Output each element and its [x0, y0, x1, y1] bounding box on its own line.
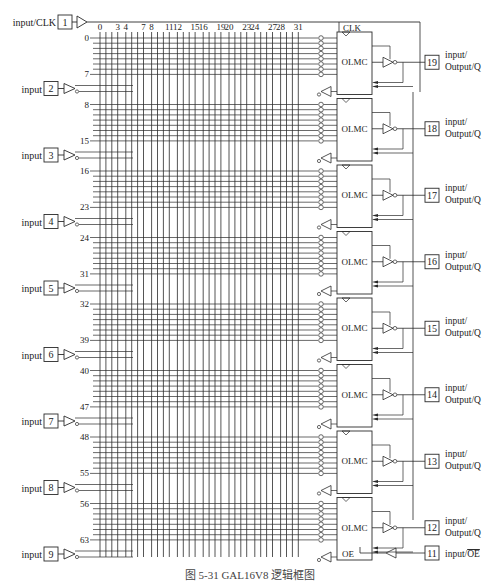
- and-gate-icon: [319, 405, 324, 410]
- and-gate-icon: [319, 200, 324, 205]
- pin-number: 16: [427, 256, 437, 267]
- input-buffer-icon: [64, 283, 75, 293]
- feedback-arrow-icon: [372, 148, 378, 151]
- pin-label: Output/Q: [445, 328, 481, 338]
- and-gate-icon: [319, 307, 324, 312]
- row-label: 8: [85, 100, 90, 110]
- input-pin-4: input4: [21, 215, 133, 229]
- feedback-buffer-icon: [321, 153, 331, 163]
- feedback-buffer-icon: [321, 286, 331, 296]
- and-gate-icon: [319, 466, 324, 471]
- and-gate-icon: [319, 169, 324, 174]
- feedback-buffer-icon: [321, 87, 331, 97]
- and-gate-icon: [319, 261, 324, 266]
- column-label: 12: [173, 22, 182, 32]
- pin-label: input/: [445, 449, 468, 459]
- and-gate-icon: [319, 512, 324, 517]
- and-gate-icon: [319, 456, 324, 461]
- output-buffer-icon: [383, 456, 393, 466]
- pin-label: Output/Q: [445, 461, 481, 471]
- pin-label: input/: [445, 183, 468, 193]
- pin-label: input/: [445, 516, 468, 526]
- and-gate-icon: [319, 450, 324, 455]
- row-label: 23: [80, 202, 90, 212]
- and-gate-icon: [319, 394, 324, 399]
- and-gate-icon: [319, 445, 324, 450]
- row-label: 15: [80, 136, 90, 146]
- pin-number: 4: [49, 216, 54, 227]
- pin-label: Output/Q: [445, 395, 481, 405]
- pin-number: 18: [427, 123, 437, 134]
- and-gate-icon: [319, 501, 324, 506]
- input-buffer-icon: [64, 416, 75, 426]
- feedback-buffer-icon: [321, 552, 331, 562]
- and-gate-icon: [319, 532, 324, 537]
- pin-number: 1: [63, 17, 68, 28]
- and-gate-icon: [319, 323, 324, 328]
- input-pin-label: input: [21, 483, 42, 494]
- row-label: 31: [80, 269, 89, 279]
- column-label: 31: [294, 22, 303, 32]
- feedback-buffer-icon: [321, 419, 331, 429]
- and-gate-icon: [319, 333, 324, 338]
- pin-number: 15: [427, 323, 437, 334]
- column-label: 24: [250, 22, 260, 32]
- pin-label: input/: [445, 250, 468, 260]
- pin-number: 5: [49, 283, 54, 294]
- pin-number: 17: [427, 190, 437, 201]
- and-gate-icon: [319, 190, 324, 195]
- and-gate-icon: [319, 51, 324, 56]
- pin-number: 11: [427, 548, 437, 559]
- and-gate-icon: [319, 384, 324, 389]
- output-buffer-icon: [383, 257, 393, 267]
- and-gate-icon: [319, 435, 324, 440]
- pin-label: Output/Q: [445, 528, 481, 538]
- and-gate-icon: [319, 139, 324, 144]
- pin-label: input/: [445, 383, 468, 393]
- and-gate-icon: [319, 62, 324, 67]
- input-pin-label: input: [21, 150, 42, 161]
- feedback-arrow-icon: [372, 347, 378, 350]
- feedback-bus: [413, 22, 420, 520]
- and-gate-icon: [319, 57, 324, 62]
- and-gate-icon: [319, 317, 324, 322]
- input-pin-label: input: [21, 84, 42, 95]
- input-buffer-icon: [64, 217, 75, 227]
- and-gate-icon: [319, 246, 324, 251]
- feedback-buffer-icon: [321, 220, 331, 230]
- pin-number: 12: [427, 522, 437, 533]
- feedback-arrow-icon: [372, 414, 378, 417]
- column-label: 28: [276, 22, 286, 32]
- and-gate-icon: [319, 36, 324, 41]
- oe-label: OE: [342, 549, 354, 559]
- output-buffer-icon: [383, 323, 393, 333]
- pin-label: Output/Q: [445, 195, 481, 205]
- clk-label: CLK: [343, 23, 362, 33]
- input-pin-5: input5: [21, 281, 133, 295]
- olmc-label: OLMC: [341, 456, 367, 466]
- pin-number: 2: [49, 83, 54, 94]
- input-pin-label: input: [21, 549, 42, 560]
- row-label: 56: [80, 499, 90, 509]
- feedback-arrow-icon: [372, 214, 378, 217]
- and-gate-icon: [319, 67, 324, 72]
- and-gate-icon: [319, 506, 324, 511]
- pin-number: 19: [427, 57, 437, 68]
- row-label: 0: [85, 33, 90, 43]
- and-gate-icon: [319, 128, 324, 133]
- and-gate-icon: [319, 461, 324, 466]
- and-gate-icon: [319, 389, 324, 394]
- and-gate-icon: [319, 174, 324, 179]
- and-gate-icon: [319, 266, 324, 271]
- feedback-arrow-icon: [372, 281, 378, 284]
- pin-label: Output/Q: [445, 62, 481, 72]
- row-label: 40: [80, 366, 90, 376]
- row-label: 48: [80, 432, 90, 442]
- and-gate-icon: [319, 440, 324, 445]
- and-gate-icon: [319, 179, 324, 184]
- and-gate-icon: [319, 338, 324, 343]
- input-pin-label: input: [21, 217, 42, 228]
- pin-number: 3: [49, 150, 54, 161]
- and-gate-icon: [319, 471, 324, 476]
- olmc-section-19: 07OLMC19input/Output/Q: [85, 32, 482, 97]
